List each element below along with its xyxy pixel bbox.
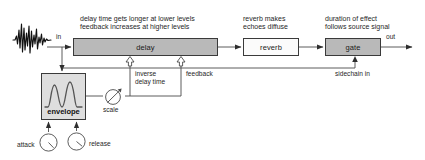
attack-label: attack: [17, 141, 35, 149]
caption-reverb: reverb makes echoes diffuse: [243, 15, 288, 31]
port-label-sidechain-in: sidechain in: [335, 70, 370, 78]
node-gate[interactable]: gate: [325, 38, 381, 56]
caption-delay: delay time gets longer at lower levels f…: [80, 15, 195, 31]
scale-label: scale: [103, 106, 118, 114]
port-label-feedback: feedback: [186, 70, 213, 78]
node-envelope[interactable]: envelope: [41, 73, 86, 120]
node-gate-label: gate: [346, 43, 361, 52]
envelope-curve-icon: [42, 76, 85, 109]
port-label-in: in: [56, 33, 61, 41]
release-knob-icon[interactable]: [67, 132, 86, 151]
node-reverb-label: reverb: [260, 43, 282, 52]
signal-flow-diagram: delay reverb gate envelope delay time ge…: [0, 0, 425, 160]
audio-waveform-icon: [12, 22, 52, 58]
feedback-arrow: [177, 57, 185, 67]
node-delay[interactable]: delay: [73, 38, 218, 56]
inverse-delay-time-arrow: [126, 57, 134, 67]
node-delay-label: delay: [136, 43, 154, 52]
sidechain-arrowhead: [352, 56, 358, 62]
port-label-inverse-delay-time: inverse delay time: [135, 70, 165, 86]
node-envelope-label: envelope: [42, 107, 85, 116]
release-label: release: [89, 140, 111, 148]
scale-amplifier-icon[interactable]: [103, 86, 125, 106]
node-reverb[interactable]: reverb: [243, 38, 299, 56]
port-label-out: out: [386, 33, 395, 41]
caption-gate: duration of effect follows source signal: [325, 15, 390, 31]
attack-knob-icon[interactable]: [39, 133, 58, 152]
